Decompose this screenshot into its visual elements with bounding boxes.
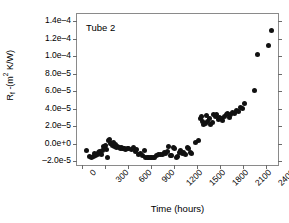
x-axis-tick-label: 900 bbox=[160, 168, 176, 184]
data-point bbox=[242, 101, 247, 106]
y-axis-tick bbox=[73, 144, 77, 145]
data-point bbox=[189, 151, 194, 156]
data-point bbox=[240, 106, 245, 111]
y-axis-tick bbox=[73, 126, 77, 127]
y-axis-tick-right bbox=[278, 109, 282, 110]
y-axis-tick-label: 2.0e–5 bbox=[45, 121, 71, 130]
x-axis-tick-label: 300 bbox=[114, 168, 130, 184]
data-point bbox=[196, 138, 201, 143]
y-axis-tick bbox=[73, 109, 77, 110]
y-axis-tick bbox=[73, 39, 77, 40]
y-axis-tick-right bbox=[278, 161, 282, 162]
y-axis-tick-label: 1.4e–4 bbox=[45, 16, 71, 25]
data-point bbox=[84, 148, 89, 153]
x-axis-tick-labels: 030060090012001500180021002400 bbox=[76, 168, 286, 202]
data-point bbox=[252, 88, 257, 93]
y-axis-tick-right bbox=[278, 39, 282, 40]
y-axis-tick-right bbox=[278, 91, 282, 92]
x-axis-title: Time (hours) bbox=[76, 203, 279, 214]
y-axis-tick bbox=[73, 91, 77, 92]
y-axis-tick-right bbox=[278, 21, 282, 22]
data-point bbox=[104, 147, 109, 152]
x-axis-tick-label: 2400 bbox=[276, 168, 289, 188]
data-point bbox=[210, 120, 215, 125]
y-axis-tick-right bbox=[278, 126, 282, 127]
plot-area bbox=[76, 13, 279, 166]
y-axis-tick-label: –2.0e-5 bbox=[42, 156, 71, 165]
y-axis-tick-label: 1.2e–4 bbox=[45, 33, 71, 42]
y-axis-tick-right bbox=[278, 144, 282, 145]
data-point bbox=[105, 155, 110, 160]
scatter-chart-figure: Rf -(m2 K/W) –2.0e-50.0e+02.0e–54.0e–56.… bbox=[0, 0, 289, 223]
y-axis-tick bbox=[73, 74, 77, 75]
y-axis-tick bbox=[73, 56, 77, 57]
y-axis-tick-label: 8.0e–5 bbox=[45, 68, 71, 77]
y-axis-tick-label: 4.0e–5 bbox=[45, 103, 71, 112]
y-axis-tick-right bbox=[278, 56, 282, 57]
y-axis-tick-right bbox=[278, 74, 282, 75]
data-point bbox=[142, 148, 147, 153]
x-axis-tick-label: 1800 bbox=[230, 168, 250, 188]
data-point bbox=[266, 43, 271, 48]
y-axis-tick bbox=[73, 21, 77, 22]
y-axis-tick-label: 1.0e–4 bbox=[45, 51, 71, 60]
x-axis-tick-label: 600 bbox=[137, 168, 153, 184]
y-axis-tick-label: 6.0e–5 bbox=[45, 86, 71, 95]
plot-annotation-label: Tube 2 bbox=[86, 22, 115, 33]
data-point bbox=[269, 28, 274, 33]
x-axis-tick-label: 1200 bbox=[185, 168, 205, 188]
y-axis-tick bbox=[73, 161, 77, 162]
x-axis-tick-label: 1500 bbox=[208, 168, 228, 188]
y-axis-tick-label: 0.0e+0 bbox=[45, 138, 71, 147]
x-axis-tick-label: 2100 bbox=[253, 168, 273, 188]
x-axis-tick-label: 0 bbox=[89, 168, 99, 178]
data-point bbox=[255, 52, 260, 57]
y-axis-tick-labels: –2.0e-50.0e+02.0e–54.0e–56.0e–58.0e–51.0… bbox=[0, 13, 71, 166]
